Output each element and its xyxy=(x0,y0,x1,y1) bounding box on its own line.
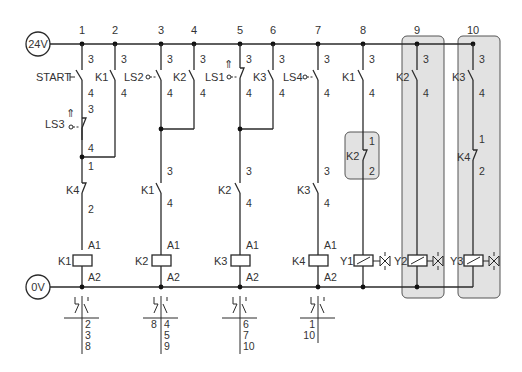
svg-text:4: 4 xyxy=(88,142,94,154)
nc-contact-symbol-icon xyxy=(75,297,79,313)
svg-text:4: 4 xyxy=(167,87,173,99)
no-contact-symbol-icon xyxy=(84,297,88,313)
ls4-limit-switch-label: LS4 xyxy=(283,71,303,83)
column-number: 9 xyxy=(414,24,420,36)
cross-ref-k1: 2 3 8 xyxy=(64,296,99,354)
no-contact-symbol-icon xyxy=(320,297,324,313)
rung-k1: 3 4 START 3 LS3 ⇑ 4 3 4 K1 1 K4 2 A1 A2 … xyxy=(36,44,127,289)
svg-text:4: 4 xyxy=(324,197,330,209)
nc-contact-symbol-icon xyxy=(154,297,158,313)
svg-text:4: 4 xyxy=(246,197,252,209)
rung-k2: 3 4 LS2 3 4 K2 3 K1 4 A1 A2 K2 xyxy=(124,44,206,289)
column-number: 10 xyxy=(467,24,479,36)
svg-text:3: 3 xyxy=(479,53,485,65)
svg-text:3: 3 xyxy=(246,53,252,65)
ladder-diagram: 24V 0V 1 2 3 4 5 6 7 8 9 10 xyxy=(0,0,522,372)
svg-text:A1: A1 xyxy=(324,239,337,251)
start-pushbutton-label: START xyxy=(36,71,71,83)
svg-text:4: 4 xyxy=(121,87,127,99)
y3-solenoid-label: Y3 xyxy=(450,255,463,267)
column-number: 6 xyxy=(270,24,276,36)
actuated-arrow-icon: ⇑ xyxy=(224,58,233,70)
svg-text:A1: A1 xyxy=(88,239,101,251)
k4-nc-contact-label: K4 xyxy=(66,184,79,196)
k2-col9-contact-label: K2 xyxy=(396,71,409,83)
rung-k3: 3 4 LS1 ⇑ 3 4 K3 3 K2 4 A1 A2 K3 xyxy=(205,44,285,289)
svg-text:4: 4 xyxy=(246,87,252,99)
limit-switch-roller-icon xyxy=(227,75,231,79)
column-number: 5 xyxy=(237,24,243,36)
ground-label: 0V xyxy=(31,281,45,293)
svg-text:3: 3 xyxy=(88,103,94,115)
column-number: 2 xyxy=(112,24,118,36)
k4-coil-label: K4 xyxy=(292,255,305,267)
ls1-limit-switch-label: LS1 xyxy=(205,71,225,83)
ls2-limit-switch-label: LS2 xyxy=(124,71,144,83)
limit-switch-roller-icon xyxy=(69,125,73,129)
svg-text:9: 9 xyxy=(164,340,170,352)
k2-coil-icon xyxy=(152,255,171,266)
svg-text:3: 3 xyxy=(423,53,429,65)
k3-series-contact-label: K3 xyxy=(297,184,310,196)
svg-text:3: 3 xyxy=(121,53,127,65)
column-number: 8 xyxy=(360,24,366,36)
column-number: 1 xyxy=(79,24,85,36)
supply-label: 24V xyxy=(28,38,48,50)
svg-text:10: 10 xyxy=(243,340,255,352)
k2-series-contact-label: K2 xyxy=(218,184,231,196)
y2-solenoid-label: Y2 xyxy=(394,255,407,267)
svg-text:3: 3 xyxy=(246,165,252,177)
svg-text:A1: A1 xyxy=(246,239,259,251)
k3-coil-icon xyxy=(231,255,250,266)
ls3-limit-switch-label: LS3 xyxy=(45,118,65,130)
svg-text:1: 1 xyxy=(479,133,485,145)
column-number: 4 xyxy=(191,24,197,36)
k2-nc-contact-label: K2 xyxy=(346,150,359,162)
svg-text:1: 1 xyxy=(88,160,94,172)
svg-text:4: 4 xyxy=(324,87,330,99)
nc-contact-symbol-icon xyxy=(311,297,315,313)
svg-text:A1: A1 xyxy=(167,239,180,251)
svg-text:3: 3 xyxy=(369,53,375,65)
svg-text:4: 4 xyxy=(423,87,429,99)
svg-text:3: 3 xyxy=(88,53,94,65)
svg-text:2: 2 xyxy=(369,165,375,177)
k1-coil-label: K1 xyxy=(58,255,71,267)
cross-ref-k4: 1 10 xyxy=(300,296,335,343)
svg-text:3: 3 xyxy=(167,165,173,177)
svg-text:1: 1 xyxy=(369,135,375,147)
k1-col8-contact-label: K1 xyxy=(342,71,355,83)
svg-text:3: 3 xyxy=(167,53,173,65)
svg-text:4: 4 xyxy=(88,87,94,99)
svg-text:A2: A2 xyxy=(167,271,180,283)
svg-text:3: 3 xyxy=(279,53,285,65)
svg-text:3: 3 xyxy=(324,53,330,65)
k2-coil-label: K2 xyxy=(135,255,148,267)
svg-text:8: 8 xyxy=(151,318,157,330)
svg-text:4: 4 xyxy=(167,197,173,209)
column-number: 7 xyxy=(315,24,321,36)
svg-text:4: 4 xyxy=(279,87,285,99)
k4-coil-icon xyxy=(309,255,328,266)
nc-contact-symbol-icon xyxy=(233,297,237,313)
column-numbers: 1 2 3 4 5 6 7 8 9 10 xyxy=(79,24,479,36)
actuated-arrow-icon: ⇑ xyxy=(66,107,75,119)
no-contact-symbol-icon xyxy=(163,297,167,313)
cross-ref-k3: 6 7 10 xyxy=(222,296,257,354)
svg-text:4: 4 xyxy=(369,87,375,99)
k3-coil-label: K3 xyxy=(214,255,227,267)
svg-text:2: 2 xyxy=(479,165,485,177)
k3-hold-contact-label: K3 xyxy=(253,71,266,83)
valve-icon xyxy=(380,252,390,270)
k3-col10-contact-label: K3 xyxy=(452,71,465,83)
k1-hold-contact-label: K1 xyxy=(95,71,108,83)
column-number: 3 xyxy=(158,24,164,36)
cross-ref-k2: 8 4 5 9 xyxy=(143,296,178,354)
svg-text:3: 3 xyxy=(200,53,206,65)
limit-switch-roller-icon xyxy=(146,75,150,79)
svg-text:2: 2 xyxy=(88,203,94,215)
k2-hold-contact-label: K2 xyxy=(173,71,186,83)
svg-text:4: 4 xyxy=(200,87,206,99)
y1-solenoid-label: Y1 xyxy=(340,255,353,267)
svg-text:A2: A2 xyxy=(246,271,259,283)
